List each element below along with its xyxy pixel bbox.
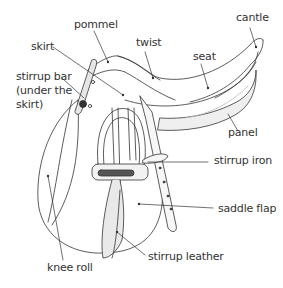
saddle-diagram: pommel cantle twist seat skirt stirrup b… (0, 0, 283, 288)
label-saddle-flap: saddle flap (218, 203, 276, 215)
label-stirrup-leather: stirrup leather (148, 251, 224, 263)
label-seat: seat (193, 51, 216, 63)
label-stirrup-bar-line3: skirt) (16, 99, 43, 111)
leader-saddle-flap (139, 204, 213, 208)
leader-seat (201, 64, 208, 88)
label-stirrup-bar: stirrup bar (16, 71, 71, 83)
label-skirt: skirt (31, 41, 54, 53)
label-knee-roll: knee roll (47, 262, 93, 274)
leader-knee-roll (48, 176, 63, 260)
girth-strap (140, 96, 176, 232)
label-panel: panel (228, 127, 258, 139)
leader-twist (145, 52, 153, 78)
pommel-shape (88, 56, 160, 80)
skirt-shape (92, 70, 175, 100)
label-cantle: cantle (236, 12, 269, 24)
stirrup-bar-stud (80, 101, 87, 108)
label-stirrup-bar-line2: (under the (16, 85, 72, 97)
knee-roll-shape (48, 100, 78, 225)
label-twist: twist (136, 37, 161, 49)
label-pommel: pommel (74, 19, 118, 31)
stirrup-leather-lower (102, 180, 124, 258)
leader-pommel (94, 31, 108, 62)
label-stirrup-iron: stirrup iron (214, 155, 272, 167)
